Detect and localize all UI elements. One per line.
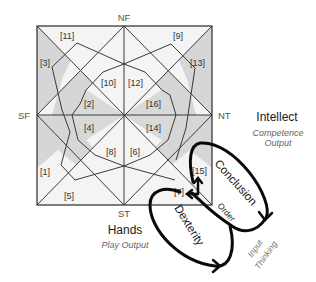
cell-13: [13] xyxy=(190,58,205,68)
personality-grid-diagram: NF SF NT ST [11] [9] [3] [13] [10] [12] … xyxy=(0,0,316,282)
intellect-subtitle-competence: Competence xyxy=(252,128,303,138)
dexterity-label: Dexterity xyxy=(172,203,206,248)
hands-subtitle: Play Output xyxy=(101,240,149,250)
conclusion-label: Conclusion xyxy=(213,157,260,207)
cell-6: [6] xyxy=(130,147,140,157)
cell-11: [11] xyxy=(60,31,74,41)
pole-label-st: ST xyxy=(118,208,130,219)
cell-12: [12] xyxy=(128,78,143,88)
cell-14: [14] xyxy=(146,123,161,133)
intellect-subtitle-output: Output xyxy=(264,138,292,148)
pole-label-sf: SF xyxy=(18,110,30,121)
grid-lines xyxy=(37,26,212,205)
cell-15: [15] xyxy=(192,166,207,176)
pole-label-nf: NF xyxy=(118,12,131,23)
cell-3: [3] xyxy=(40,58,50,68)
pole-label-nt: NT xyxy=(218,110,231,121)
cell-16: [16] xyxy=(146,99,161,109)
cell-1: [1] xyxy=(40,167,50,177)
cell-10: [10] xyxy=(101,78,116,88)
cell-5: [5] xyxy=(64,191,74,201)
cell-2: [2] xyxy=(84,99,94,109)
hands-title: Hands xyxy=(108,223,143,237)
cell-4: [4] xyxy=(84,123,94,133)
cell-8: [8] xyxy=(106,147,116,157)
intellect-title: Intellect xyxy=(256,110,298,124)
cell-9: [9] xyxy=(173,31,183,41)
order-label: Order xyxy=(216,201,238,224)
